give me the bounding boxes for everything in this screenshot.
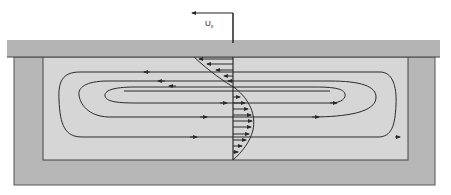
lid-velocity-arrow: Ux bbox=[192, 13, 233, 43]
cavity-flow-diagram: Ux bbox=[0, 0, 451, 195]
moving-lid bbox=[7, 40, 440, 57]
velocity-label: Ux bbox=[205, 19, 214, 29]
